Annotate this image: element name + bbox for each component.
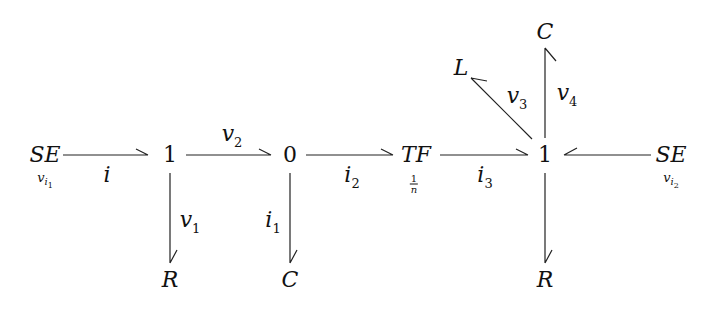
bond-1-to-c-top <box>545 48 556 138</box>
se-left-sub-idx-num: 1 <box>48 181 53 190</box>
node-se-left: SE <box>29 144 60 166</box>
bond-label-v3: v3 <box>507 85 528 110</box>
node-tf: TF <box>401 144 431 166</box>
node-se-right-label: SE <box>655 142 686 167</box>
bond-label-i: i <box>103 164 110 186</box>
tf-ratio: 1 n <box>410 174 418 195</box>
se-right-sub-idx-num: 2 <box>674 181 679 190</box>
bond-i2-var: i <box>344 162 351 187</box>
bond-label-v2: v2 <box>222 123 243 148</box>
bond-label-v1: v1 <box>180 209 201 234</box>
bond-i1-var: i <box>265 207 272 232</box>
node-se-left-label: SE <box>29 142 60 167</box>
bond-graph-canvas <box>0 0 714 311</box>
bond-tf-to-1 <box>440 149 528 155</box>
bond-v3-var: v <box>507 83 519 108</box>
bond-1-to-r <box>170 173 177 263</box>
bond-i-var: i <box>103 162 110 187</box>
bond-se-right-to-1 <box>564 148 651 155</box>
bond-label-i2: i2 <box>344 164 359 189</box>
node-l-top: L <box>454 57 469 79</box>
bond-label-i1: i1 <box>265 209 280 234</box>
node-se-right-subscript: vi2 <box>663 171 679 190</box>
bond-v3-sub: 3 <box>519 97 527 112</box>
bond-1-to-0 <box>186 149 271 155</box>
node-junction-0: 0 <box>283 144 297 166</box>
node-se-right: SE <box>655 144 686 166</box>
bond-i3-sub: 3 <box>484 176 492 191</box>
node-r-right: R <box>537 269 554 291</box>
bond-i3-var: i <box>477 162 484 187</box>
bond-v4-sub: 4 <box>569 94 577 109</box>
bond-i1-sub: 1 <box>272 221 280 236</box>
bond-v1-sub: 1 <box>192 221 200 236</box>
node-junction-1-right: 1 <box>538 144 552 166</box>
bond-v4-var: v <box>557 80 569 105</box>
bond-label-v4: v4 <box>557 82 578 107</box>
bond-0-to-tf <box>306 149 393 155</box>
bond-i2-sub: 2 <box>351 176 359 191</box>
bond-v1-var: v <box>180 207 192 232</box>
node-se-left-subscript: vi1 <box>37 171 53 190</box>
tf-ratio-denominator: n <box>411 184 417 195</box>
node-junction-1-left: 1 <box>163 144 177 166</box>
bond-v2-sub: 2 <box>234 135 242 150</box>
bond-1-to-r-right <box>545 173 552 263</box>
node-c-mid: C <box>282 269 299 291</box>
node-c-top: C <box>537 21 554 43</box>
bond-label-i3: i3 <box>477 164 492 189</box>
node-r-left: R <box>162 269 179 291</box>
bond-se-to-1 <box>63 149 148 155</box>
bond-0-to-c <box>290 173 297 263</box>
bond-v2-var: v <box>222 121 234 146</box>
